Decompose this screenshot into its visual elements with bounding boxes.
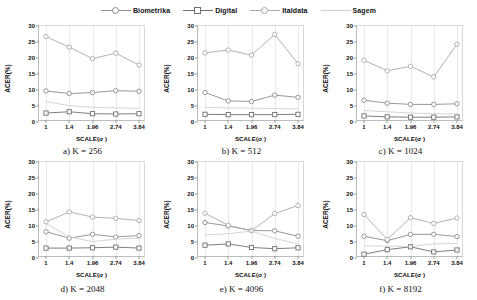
series-line: [205, 206, 298, 231]
y-tick-label: 10: [346, 87, 353, 93]
y-tick-label: 10: [346, 223, 353, 229]
y-tick-label: 25: [187, 39, 194, 45]
y-axis-label-text: ACER(%): [4, 64, 11, 93]
legend-swatch-digital: [183, 6, 213, 15]
data-point: [432, 75, 436, 79]
data-point: [408, 215, 412, 219]
series-biometrika: [203, 90, 300, 103]
data-point: [67, 91, 71, 95]
data-point: [90, 232, 94, 236]
subplot-caption: f) K = 8192: [328, 284, 473, 294]
data-point: [296, 246, 300, 250]
y-axis-label-text: ACER(%): [163, 64, 170, 93]
data-point: [455, 234, 459, 238]
series-digital: [44, 245, 141, 250]
data-point: [296, 203, 300, 207]
x-axis-label: SCALE(σ ): [356, 135, 463, 142]
data-point: [203, 243, 207, 247]
data-point: [67, 246, 71, 250]
y-tick-label: 10: [28, 223, 35, 229]
data-point: [432, 232, 436, 236]
y-tick-label: 30: [28, 159, 35, 165]
y-tick-label: 20: [346, 191, 353, 197]
x-tick-label: 1: [362, 124, 365, 130]
x-tick-label: 1.96: [246, 260, 258, 266]
series-layer: [357, 26, 464, 122]
y-tick-label: 30: [187, 159, 194, 165]
legend-label: Biometrika: [133, 7, 170, 14]
y-axis-label-text: ACER(%): [322, 64, 329, 93]
data-point: [90, 90, 94, 94]
data-point: [44, 111, 48, 115]
y-tick-label: 0: [191, 255, 194, 261]
x-tick-label: 2.74: [428, 260, 440, 266]
data-point: [408, 115, 412, 119]
x-tick-label: 2.74: [269, 260, 281, 266]
x-tick-label: 1.4: [65, 260, 73, 266]
y-tick-label: 20: [187, 55, 194, 61]
data-point: [273, 229, 277, 233]
data-point: [137, 233, 141, 237]
series-line: [46, 102, 139, 109]
y-tick-label: 25: [28, 39, 35, 45]
x-tick-label: 2.74: [269, 124, 281, 130]
y-axis-label: ACER(%): [320, 179, 331, 249]
x-tick-label: 3.84: [451, 124, 463, 130]
plot-area: 05101520253011.41.962.743.84: [38, 161, 145, 257]
legend-label: Italdata: [282, 7, 307, 14]
y-tick-label: 25: [346, 39, 353, 45]
series-italdata: [203, 203, 300, 233]
legend-swatch-sagem: [321, 6, 351, 15]
subplot-f: ACER(%)05101520253011.41.962.743.84SCALE…: [318, 153, 477, 293]
x-tick-label: 3.84: [292, 124, 304, 130]
series-layer: [39, 26, 146, 122]
y-axis-label: ACER(%): [161, 43, 172, 113]
x-tick-label: 1.4: [383, 124, 391, 130]
subplot-a: ACER(%)05101520253011.41.962.743.84SCALE…: [0, 17, 159, 153]
data-point: [432, 102, 436, 106]
chart-legend: BiometrikaDigitalItaldataSagem: [0, 3, 477, 17]
series-layer: [357, 162, 464, 258]
y-tick-label: 15: [187, 71, 194, 77]
legend-label: Sagem: [353, 7, 376, 14]
x-axis-label: SCALE(σ ): [197, 135, 304, 142]
data-point: [385, 237, 389, 241]
data-point: [455, 42, 459, 46]
x-tick-label: 1.96: [246, 124, 258, 130]
x-axis-label: SCALE(σ ): [38, 271, 145, 278]
legend-item-digital[interactable]: Digital: [183, 6, 237, 15]
legend-item-biometrika[interactable]: Biometrika: [101, 6, 170, 15]
legend-item-sagem[interactable]: Sagem: [321, 6, 376, 15]
series-italdata: [362, 42, 459, 79]
data-point: [249, 113, 253, 117]
x-tick-label: 1.96: [405, 260, 417, 266]
series-layer: [198, 162, 305, 258]
data-point: [408, 232, 412, 236]
data-point: [362, 234, 366, 238]
data-point: [203, 211, 207, 215]
data-point: [273, 93, 277, 97]
data-point: [90, 246, 94, 250]
series-italdata: [203, 32, 300, 66]
y-tick-label: 25: [346, 175, 353, 181]
series-line: [205, 34, 298, 63]
series-line: [364, 110, 457, 114]
data-point: [249, 99, 253, 103]
x-tick-label: 3.84: [133, 124, 145, 130]
series-italdata: [362, 212, 459, 241]
x-tick-label: 1: [203, 260, 206, 266]
data-point: [408, 102, 412, 106]
y-tick-label: 20: [28, 191, 35, 197]
y-tick-label: 0: [350, 255, 353, 261]
x-tick-label: 3.84: [292, 260, 304, 266]
y-tick-label: 15: [28, 207, 35, 213]
data-point: [44, 220, 48, 224]
y-tick-label: 5: [191, 103, 194, 109]
data-point: [114, 88, 118, 92]
data-point: [137, 246, 141, 250]
x-tick-label: 2.74: [428, 124, 440, 130]
x-tick-label: 1.4: [224, 260, 232, 266]
x-axis-label: SCALE(σ ): [38, 135, 145, 142]
legend-item-italdata[interactable]: Italdata: [250, 6, 307, 15]
data-point: [44, 246, 48, 250]
